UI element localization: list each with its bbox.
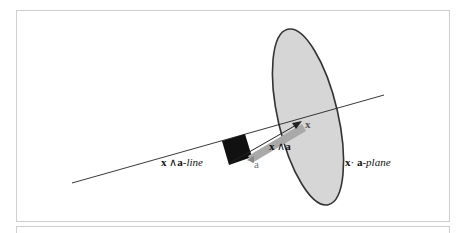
plane-label-op: ·: [351, 156, 355, 168]
line-label-suffix: -line: [183, 156, 203, 168]
bivector-a: a: [285, 140, 291, 152]
plane-label: x· a-plane: [345, 157, 391, 168]
line-label-x: x: [161, 156, 167, 168]
diagram-canvas: [0, 0, 464, 233]
vector-a-text: a: [254, 158, 259, 170]
vector-a-label: a: [254, 159, 259, 170]
line-label: x ∧a-line: [161, 157, 203, 168]
bivector-square: [222, 134, 252, 165]
plane-ellipse: [259, 23, 358, 212]
plane-label-suffix: -plane: [362, 156, 390, 168]
point-x-label: x: [305, 119, 311, 130]
point-x-text: x: [305, 118, 311, 130]
bivector-label: x ∧a: [269, 141, 291, 152]
bivector-x: x: [269, 140, 275, 152]
